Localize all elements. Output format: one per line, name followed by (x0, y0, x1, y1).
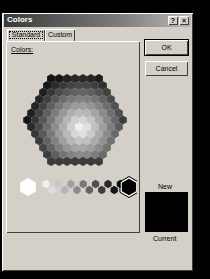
gray-cell[interactable] (92, 180, 99, 188)
ok-button[interactable]: OK (145, 40, 188, 55)
gray-cell[interactable] (86, 186, 93, 194)
colors-label: Colors: (11, 46, 33, 53)
close-button[interactable]: × (179, 16, 189, 25)
gray-cell[interactable] (111, 186, 118, 194)
current-color-label: Current (153, 235, 176, 242)
gray-cell[interactable] (55, 180, 62, 188)
cancel-button[interactable]: Cancel (145, 61, 188, 76)
gray-cell[interactable] (80, 180, 87, 188)
new-color-label: New (158, 183, 172, 190)
white-cell[interactable] (20, 178, 36, 196)
tab-custom[interactable]: Custom (45, 29, 75, 41)
color-preview-swatch (145, 192, 188, 232)
color-hexagon-palette[interactable] (14, 68, 136, 172)
help-button[interactable]: ? (168, 16, 178, 25)
gray-cell[interactable] (73, 186, 80, 194)
black-cell-selected[interactable] (121, 178, 137, 196)
gray-cell[interactable] (98, 186, 105, 194)
gray-cell[interactable] (61, 186, 68, 194)
gray-cell[interactable] (67, 180, 74, 188)
tab-standard[interactable]: Standard (7, 29, 45, 41)
dialog-title: Colors (7, 15, 32, 24)
title-bar[interactable]: Colors ? × (4, 14, 191, 27)
gray-cell[interactable] (49, 186, 56, 194)
gray-cell[interactable] (104, 180, 111, 188)
gray-cell[interactable] (42, 180, 49, 188)
grayscale-palette[interactable] (12, 176, 137, 198)
colors-dialog: Colors ? × Standard Custom Colors: OK Ca… (2, 13, 193, 271)
